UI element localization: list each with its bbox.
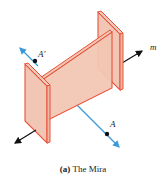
line-m-right-arrow-icon <box>122 51 142 63</box>
mirror-panel <box>40 30 112 120</box>
mira-diagram <box>0 0 166 182</box>
point-a-prime-icon <box>33 59 37 63</box>
label-a: A <box>110 120 116 129</box>
mira-figure: A′ A m (a) The Mira <box>0 0 166 182</box>
caption-text: The Mira <box>70 164 106 174</box>
caption-tag: (a) <box>60 164 71 174</box>
label-a-prime: A′ <box>38 50 45 59</box>
label-m: m <box>150 43 157 52</box>
figure-caption: (a) The Mira <box>0 164 166 174</box>
line-m-left-arrow-icon <box>15 130 36 143</box>
point-a-icon <box>105 132 109 136</box>
